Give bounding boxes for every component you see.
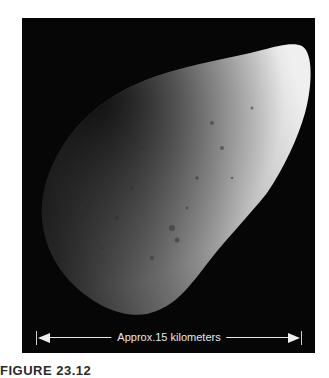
asteroid-image [22,18,315,353]
scale-bar-left-tick [36,331,37,345]
scale-bar-right-tick [301,331,302,345]
figure-caption: FIGURE 23.12 [0,364,91,378]
arrow-right-icon [288,333,300,343]
asteroid-photo: Approx.15 kilometers [22,18,315,353]
scale-bar-label: Approx.15 kilometers [111,330,226,345]
arrow-left-icon [38,333,50,343]
scale-bar: Approx.15 kilometers [36,331,302,345]
